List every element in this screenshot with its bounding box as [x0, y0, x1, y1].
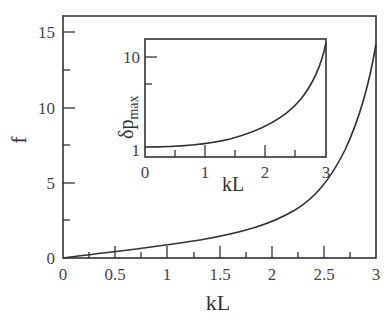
- svg-text:5: 5: [47, 174, 56, 193]
- svg-text:δpmax: δpmax: [115, 95, 141, 139]
- main-curve: [63, 44, 376, 258]
- svg-text:0: 0: [141, 163, 150, 182]
- svg-text:15: 15: [38, 23, 55, 42]
- inset-curve: [145, 43, 326, 147]
- inset-y-ticks: [145, 57, 157, 84]
- main-y-tick-labels: 15 10 5 0: [38, 23, 55, 268]
- svg-text:0: 0: [47, 249, 56, 268]
- svg-text:2: 2: [261, 163, 270, 182]
- svg-text:3: 3: [322, 163, 331, 182]
- svg-text:0.5: 0.5: [104, 265, 125, 284]
- main-plot-frame: [63, 16, 376, 258]
- inset-x-axis-label: kL: [222, 173, 244, 195]
- main-x-ticks: [89, 246, 350, 258]
- inset-y-axis-label: δpmax: [115, 95, 141, 139]
- svg-text:10: 10: [38, 99, 55, 118]
- inset-x-ticks: [175, 145, 295, 157]
- svg-text:3: 3: [372, 265, 381, 284]
- chart: 15 10 5 0 0 0.5 1 1.5 2 2.5 3 kL f 10 1 …: [0, 0, 389, 323]
- main-y-ticks: [63, 32, 75, 220]
- svg-text:1: 1: [163, 265, 172, 284]
- svg-text:2.5: 2.5: [313, 265, 334, 284]
- svg-text:10: 10: [123, 48, 140, 67]
- svg-text:2: 2: [268, 265, 277, 284]
- main-x-axis-label: kL: [206, 290, 230, 315]
- inset-plot-frame: [145, 39, 326, 157]
- svg-text:1: 1: [132, 141, 141, 160]
- svg-text:0: 0: [59, 265, 68, 284]
- svg-text:1: 1: [201, 163, 210, 182]
- main-x-tick-labels: 0 0.5 1 1.5 2 2.5 3: [59, 265, 381, 284]
- svg-text:1.5: 1.5: [209, 265, 230, 284]
- main-y-axis-label: f: [6, 136, 31, 144]
